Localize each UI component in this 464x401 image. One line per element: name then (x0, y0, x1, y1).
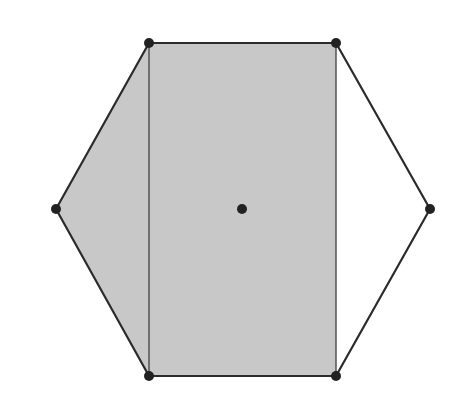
vertex-right (425, 204, 435, 214)
vertex-bottom-left (144, 371, 154, 381)
vertex-left (51, 204, 61, 214)
vertex-top-right (331, 38, 341, 48)
center-point (237, 204, 247, 214)
hexagon-diagram (0, 0, 464, 401)
vertex-top-left (144, 38, 154, 48)
vertex-bottom-right (331, 371, 341, 381)
